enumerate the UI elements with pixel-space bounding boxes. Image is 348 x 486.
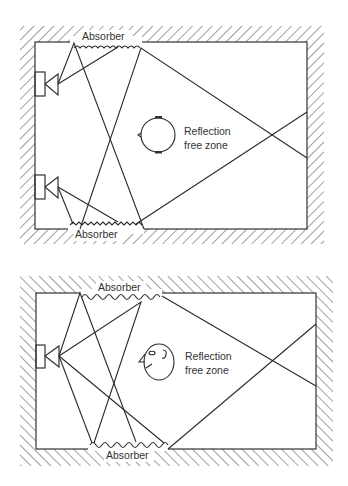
- bottom-panel: Absorber Absorber: [0, 0, 348, 486]
- reflection-free-zone-diagram: Absorber Absorber: [0, 0, 348, 486]
- absorber-label: Absorber: [106, 449, 149, 461]
- zone-label-line1: Reflection: [185, 350, 232, 362]
- wall-hatching: [0, 0, 348, 486]
- zone-label-line2: free zone: [185, 364, 229, 376]
- absorber-label: Absorber: [98, 281, 141, 293]
